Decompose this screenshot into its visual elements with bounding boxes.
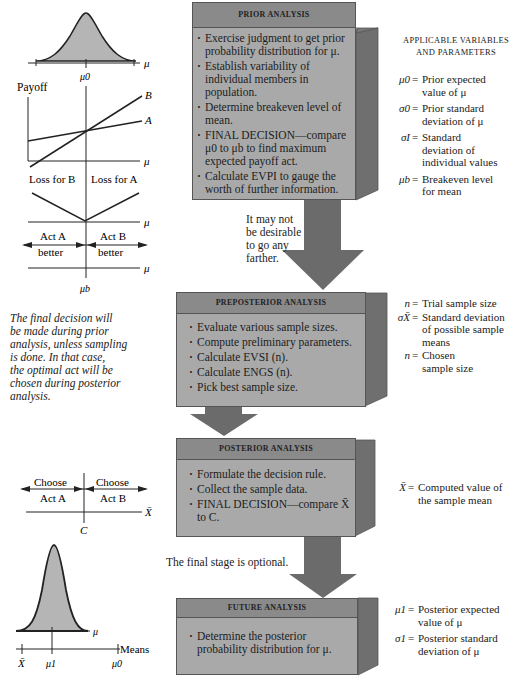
posterior-distribution-curve: [16, 545, 88, 631]
param-desc: Prior standard: [422, 102, 526, 115]
param-desc: Trial sample size: [422, 297, 526, 310]
act-b-label: Act B: [100, 230, 126, 242]
payoff-label: Payoff: [17, 81, 48, 94]
step: Pick best sample size.: [189, 381, 361, 394]
step: Calculate ENGS (n).: [189, 366, 361, 379]
equals-sign: =: [412, 173, 418, 186]
prior-tick-label: μ0: [79, 71, 90, 82]
preposterior-analysis-steps: Evaluate various sample sizes. Compute p…: [189, 321, 361, 394]
breakeven-tick-label: μb: [79, 283, 90, 294]
cutoff-c-label: C: [80, 524, 88, 536]
future-parameters: μ1=Posterior expectedvalue of μ σ1=Poste…: [380, 603, 526, 661]
means-label: Means: [120, 643, 149, 655]
step: Calculate EVPI to gauge the worth of fur…: [197, 170, 351, 196]
better-right-label: better: [98, 246, 123, 258]
param-row: σ1=Posterior standarddeviation of μ: [380, 632, 526, 657]
heading-line: APPLICABLE VARIABLES: [386, 34, 526, 46]
param-desc: sample size: [422, 362, 526, 375]
equals-sign: =: [412, 297, 418, 310]
step: Compute preliminary parameters.: [189, 336, 361, 349]
posterior-box-side-face: [355, 440, 375, 536]
loss-graph: Loss for B Loss for A μ: [28, 173, 150, 228]
param-desc: Standard deviation: [422, 311, 526, 324]
param-symbol: n: [384, 297, 410, 310]
param-row: σI=Standarddeviation ofindividual values: [384, 131, 526, 169]
param-desc: Chosen: [422, 349, 526, 362]
equals-sign: =: [412, 131, 418, 144]
step: Calculate EVSI (n).: [189, 351, 361, 364]
arrow-right-icon: [138, 242, 148, 248]
param-symbol: μb: [384, 173, 410, 186]
param-symbol: μ0: [384, 73, 410, 86]
prior-analysis-box: Exercise judgment to get prior probabili…: [192, 27, 356, 200]
step: FINAL DECISION—compare μ0 to μb to find …: [197, 129, 351, 168]
better-axis-label: μ: [143, 262, 150, 274]
note-final-stage-optional: The final stage is optional.: [166, 556, 288, 569]
line-a-label: A: [144, 114, 152, 126]
decision-axis-label: X̄: [144, 506, 153, 518]
equals-sign: =: [412, 102, 418, 115]
param-desc: Prior expected: [422, 73, 526, 86]
equals-sign: =: [408, 603, 414, 616]
xbar-tick-label: X̄: [17, 657, 26, 669]
prior-analysis-steps: Exercise judgment to get prior probabili…: [197, 32, 351, 196]
note-line: farther.: [246, 252, 301, 265]
future-box-side-face: [358, 598, 378, 675]
param-symbol: n: [384, 349, 410, 362]
prior-parameters: μ0=Prior expectedvalue of μ σ0=Prior sta…: [384, 73, 526, 202]
loss-for-b-label: Loss for B: [29, 173, 75, 185]
param-desc: the sample mean: [418, 494, 526, 507]
param-row: μ0=Prior expectedvalue of μ: [384, 73, 526, 98]
posterior-analysis-box: Formulate the decision rule. Collect the…: [176, 459, 356, 537]
param-desc: Posterior expected: [418, 603, 526, 616]
param-symbol: μ1: [380, 603, 406, 616]
param-desc: value of μ: [418, 616, 526, 629]
future-analysis-steps: Determine the posterior probability dist…: [189, 630, 353, 656]
param-desc: Standard: [422, 131, 526, 144]
param-symbol: σ0: [384, 102, 410, 115]
choose-b-label-top: Choose: [96, 476, 129, 488]
arrow-left-icon: [22, 242, 32, 248]
param-symbol: X̄: [380, 481, 406, 494]
prior-analysis-title: PRIOR ANALYSIS: [192, 2, 356, 28]
posterior-axis-label: μ: [92, 626, 98, 637]
equals-sign: =: [408, 481, 414, 494]
param-desc: deviation of μ: [422, 115, 526, 128]
equals-sign: =: [412, 73, 418, 86]
note-line: to go any: [246, 239, 301, 252]
future-analysis-box: Determine the posterior probability dist…: [176, 617, 358, 675]
posterior-distribution-graph: μ Means X̄ μ1 μ0: [16, 545, 149, 669]
act-a-label: Act A: [40, 230, 66, 242]
payoff-line-a: [28, 121, 142, 141]
step: FINAL DECISION—compare X̄ to C.: [189, 498, 351, 524]
future-analysis-title: FUTURE ANALYSIS: [176, 598, 358, 618]
heading-line: AND PARAMETERS: [386, 46, 526, 58]
prior-distribution-graph: μ μ0: [28, 13, 150, 82]
param-row: σ0=Prior standarddeviation of μ: [384, 102, 526, 127]
decision-rule-graph: Choose Act A Choose Act B X̄ C: [20, 473, 153, 536]
param-row: μ1=Posterior expectedvalue of μ: [380, 603, 526, 628]
note-line: It may not: [246, 213, 301, 226]
note-not-desirable: It may not be desirable to go any farthe…: [246, 213, 301, 265]
param-symbol: σI: [384, 131, 410, 144]
better-left-label: better: [38, 246, 63, 258]
prior-box-side-face: [356, 28, 378, 200]
parameters-heading: APPLICABLE VARIABLES AND PARAMETERS: [386, 34, 526, 58]
param-desc: Posterior standard: [418, 632, 526, 645]
step: Determine breakeven level of mean.: [197, 101, 351, 127]
equals-sign: =: [412, 311, 418, 324]
param-row: n=Trial sample size: [384, 297, 526, 310]
param-desc: deviation of μ: [418, 645, 526, 658]
param-row: μb=Breakeven levelfor mean: [384, 173, 526, 198]
line-b-label: B: [145, 89, 152, 101]
param-desc: Breakeven level: [422, 173, 526, 186]
prior-axis-label: μ: [143, 57, 150, 69]
equals-sign: =: [412, 349, 418, 362]
param-row: n=Chosensample size: [384, 349, 526, 374]
equals-sign: =: [408, 632, 414, 645]
choose-a-label-bottom: Act A: [40, 492, 66, 504]
param-row: X̄=Computed value ofthe sample mean: [380, 481, 526, 506]
preposterior-parameters: n=Trial sample size σX̄=Standard deviati…: [384, 297, 526, 378]
param-desc: value of μ: [422, 86, 526, 99]
step: Collect the sample data.: [189, 483, 351, 496]
